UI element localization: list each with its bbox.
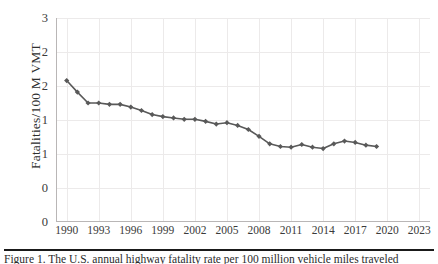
data-point-marker: [224, 120, 229, 125]
y-axis-title: Fatalities/100 M VMT: [28, 6, 44, 206]
data-point-marker: [310, 145, 315, 150]
data-point-marker: [150, 112, 155, 117]
figure-container: Fatalities/100 M VMT 3221100 19901993199…: [0, 0, 438, 264]
y-axis-tick-label: 2: [14, 45, 48, 60]
data-point-marker: [182, 117, 187, 122]
x-axis-tick-label: 2023: [399, 224, 438, 236]
y-axis-tick-label: 1: [14, 113, 48, 128]
data-point-marker: [128, 104, 133, 109]
y-axis-tick-label: 0: [14, 181, 48, 196]
data-point-marker: [288, 145, 293, 150]
data-point-marker: [374, 144, 379, 149]
plot-area: 1990199319961999200220052008201120142017…: [56, 18, 430, 222]
data-point-marker: [203, 119, 208, 124]
data-point-marker: [118, 102, 123, 107]
data-point-marker: [192, 117, 197, 122]
data-point-marker: [299, 142, 304, 147]
data-point-marker: [96, 100, 101, 105]
data-point-marker: [171, 115, 176, 120]
fatality-rate-line-series: [56, 18, 430, 222]
data-point-marker: [139, 108, 144, 113]
y-axis-tick-label: 1: [14, 147, 48, 162]
y-axis-tick-label: 2: [14, 79, 48, 94]
data-point-marker: [321, 146, 326, 151]
data-point-marker: [214, 121, 219, 126]
data-point-marker: [160, 114, 165, 119]
data-point-marker: [363, 143, 368, 148]
y-axis-tick-label: 0: [14, 215, 48, 230]
data-point-marker: [342, 138, 347, 143]
data-point-marker: [107, 102, 112, 107]
data-point-marker: [331, 141, 336, 146]
data-point-marker: [353, 140, 358, 145]
data-point-marker: [278, 144, 283, 149]
data-point-marker: [235, 123, 240, 128]
caption-divider: [4, 249, 434, 251]
y-axis-tick-label: 3: [14, 11, 48, 26]
figure-caption: Figure 1. The U.S. annual highway fatali…: [4, 253, 434, 264]
series-line: [67, 81, 377, 149]
